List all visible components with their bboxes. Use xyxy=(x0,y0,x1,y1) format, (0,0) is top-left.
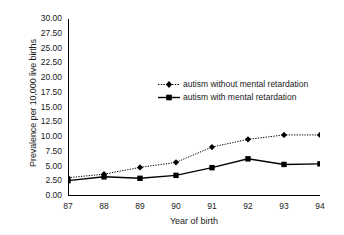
data-point-marker xyxy=(245,156,250,161)
data-point-marker xyxy=(317,161,320,166)
x-tick-label: 89 xyxy=(125,201,155,211)
x-tick-label: 94 xyxy=(305,201,335,211)
chart-figure: Prevalence per 10,000 live births 0.002.… xyxy=(0,0,344,235)
legend-label: autism with mental retardation xyxy=(183,92,296,103)
data-point-marker xyxy=(137,164,143,170)
data-point-marker xyxy=(101,174,106,179)
data-point-marker xyxy=(317,132,320,138)
legend-marker-diamond-dotted xyxy=(158,79,180,90)
x-tick-label: 88 xyxy=(89,201,119,211)
data-point-marker xyxy=(245,136,251,142)
x-tick-label: 92 xyxy=(233,201,263,211)
legend-marker-square-solid xyxy=(158,92,180,103)
legend-item-autism-with-mental-retardation: autism with mental retardation xyxy=(158,91,308,104)
data-point-marker xyxy=(281,132,287,138)
x-tick-label: 87 xyxy=(53,201,83,211)
chart-legend: autism without mental retardation autism… xyxy=(158,78,308,104)
x-axis-title: Year of birth xyxy=(68,216,320,226)
legend-label: autism without mental retardation xyxy=(183,79,308,90)
plot-svg xyxy=(68,19,320,196)
data-point-marker xyxy=(68,178,71,183)
x-tick-label: 91 xyxy=(197,201,227,211)
x-tick-label: 93 xyxy=(269,201,299,211)
data-point-marker xyxy=(173,159,179,165)
data-point-marker xyxy=(209,165,214,170)
data-point-marker xyxy=(281,162,286,167)
plot-area xyxy=(68,19,320,196)
legend-item-autism-without-mental-retardation: autism without mental retardation xyxy=(158,78,308,91)
data-point-marker xyxy=(209,144,215,150)
data-point-marker xyxy=(137,176,142,181)
x-tick-label: 90 xyxy=(161,201,191,211)
data-point-marker xyxy=(173,173,178,178)
